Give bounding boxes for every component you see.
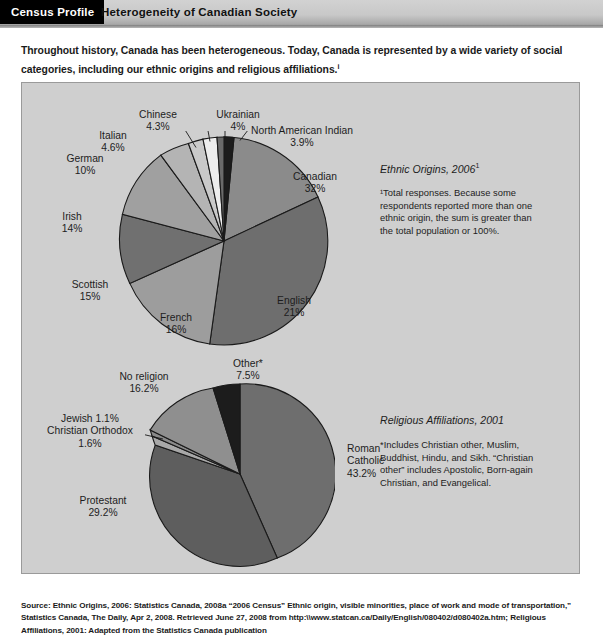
label-canadian-text: Canadian 32%	[293, 171, 337, 194]
label-no-religion-text: No religion 16.2%	[119, 371, 168, 394]
label-no-religion: No religion 16.2%	[99, 371, 189, 396]
label-north-american-indian-text: North American Indian 3.9%	[251, 125, 353, 148]
label-chinese-text: Chinese 4.3%	[139, 109, 177, 132]
source-note: Source: Ethnic Origins, 2006: Statistics…	[21, 600, 586, 637]
intro-paragraph: Throughout history, Canada has been hete…	[21, 43, 583, 77]
label-canadian: Canadian 32%	[275, 171, 355, 196]
figure-panel: Chinese 4.3% Ukrainian 4% Italian 4.6% N…	[21, 82, 580, 574]
religious-affiliations-title-text: Religious Affiliations, 2001	[380, 414, 504, 426]
religious-affiliations-note: *Includes Christian other, Muslim, Buddh…	[380, 439, 545, 489]
ethnic-origins-title-marker: 1	[475, 162, 479, 169]
label-roman-catholic: Roman Catholic 43.2%	[347, 443, 384, 480]
census-profile-tab-label: Census Profile	[11, 6, 94, 18]
header-bar: Census Profile Heterogeneity of Canadian…	[0, 0, 603, 27]
label-jewish-christian-orthodox-text: Jewish 1.1% Christian Orthodox 1.6%	[47, 413, 133, 449]
header-divider	[0, 25, 603, 28]
label-italian-text: Italian 4.6%	[99, 130, 126, 153]
label-english-text: English 21%	[277, 295, 311, 318]
label-protestant-text: Protestant 29.2%	[80, 495, 127, 518]
census-profile-tab: Census Profile	[0, 0, 104, 24]
page-title-label: Heterogeneity of Canadian Society	[101, 6, 297, 18]
label-north-american-indian: North American Indian 3.9%	[224, 125, 380, 150]
label-irish-text: Irish 14%	[62, 211, 83, 234]
intro-text: Throughout history, Canada has been hete…	[21, 45, 562, 75]
label-italian: Italian 4.6%	[76, 130, 150, 155]
label-english: English 21%	[254, 295, 334, 320]
religious-affiliations-pie-svg	[145, 379, 335, 569]
label-scottish: Scottish 15%	[50, 279, 130, 304]
label-other-text: Other* 7.5%	[233, 358, 263, 381]
label-scottish-text: Scottish 15%	[72, 279, 109, 302]
label-jewish-christian-orthodox: Jewish 1.1% Christian Orthodox 1.6%	[28, 413, 152, 450]
label-german-text: German 10%	[66, 153, 103, 176]
label-other: Other* 7.5%	[210, 358, 286, 383]
ethnic-origins-note: ¹Total responses. Because some responden…	[380, 187, 545, 237]
label-roman-catholic-text: Roman Catholic 43.2%	[347, 443, 384, 479]
label-protestant: Protestant 29.2%	[58, 495, 148, 520]
intro-footnote-marker: i	[337, 63, 339, 70]
religious-affiliations-title: Religious Affiliations, 2001	[380, 414, 504, 426]
label-french-text: French 16%	[160, 312, 192, 335]
page-title: Heterogeneity of Canadian Society	[101, 0, 297, 24]
ethnic-origins-title: Ethnic Origins, 20061	[380, 162, 479, 175]
label-irish: Irish 14%	[36, 211, 108, 236]
label-french: French 16%	[136, 312, 216, 337]
label-german: German 10%	[48, 153, 122, 178]
ethnic-origins-title-text: Ethnic Origins, 2006	[380, 163, 475, 175]
religious-affiliations-pie-chart	[145, 379, 335, 569]
